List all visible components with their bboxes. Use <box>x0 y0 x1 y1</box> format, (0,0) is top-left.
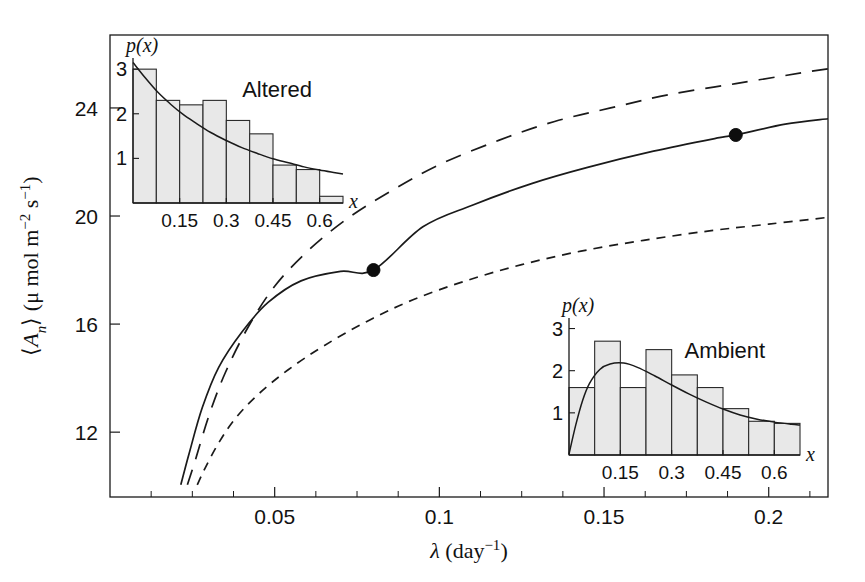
inset-x-axis-name-ambient: x <box>805 443 815 465</box>
x-axis-title-text: λ (day−1) <box>429 537 507 563</box>
inset-bar <box>697 388 723 455</box>
data-markers <box>367 128 742 276</box>
inset-bar <box>250 134 273 203</box>
y-axis-title: ⟨An⟩ (μ mol m−2 s−1) <box>17 176 49 355</box>
y-tick-label-2: 20 <box>75 205 98 228</box>
inset-bar <box>646 350 672 455</box>
inset-title-ambient: Ambient <box>685 338 766 363</box>
inset-bar <box>296 170 319 203</box>
x-axis: 0.050.10.150.2 <box>151 487 810 528</box>
inset-bar <box>749 421 775 455</box>
scientific-figure: 0.050.10.150.212162024λ (day−1)⟨An⟩ (μ m… <box>0 0 865 582</box>
inset-bar <box>320 196 343 203</box>
inset-x-tick-label-altered-0: 0.15 <box>161 210 198 231</box>
x-tick-label-2: 0.15 <box>584 505 625 528</box>
inset-x-tick-label-ambient-0: 0.15 <box>602 462 639 483</box>
inset-ambient: 1230.150.30.450.6p(x)xAmbient <box>552 294 815 483</box>
inset-y-tick-label-ambient-0: 1 <box>552 402 563 424</box>
inset-x-axis-name-altered: x <box>348 190 358 212</box>
inset-bar <box>620 388 646 455</box>
inset-x-tick-label-altered-3: 0.6 <box>306 210 332 231</box>
inset-bar <box>133 69 156 203</box>
y-tick-label-0: 12 <box>75 421 98 444</box>
inset-x-tick-label-ambient-2: 0.45 <box>705 462 742 483</box>
x-tick-label-3: 0.2 <box>754 505 783 528</box>
inset-bar <box>203 100 226 203</box>
inset-y-tick-label-ambient-2: 3 <box>552 318 563 340</box>
x-tick-label-0: 0.05 <box>254 505 295 528</box>
inset-y-tick-label-ambient-1: 2 <box>552 360 563 382</box>
x-tick-label-1: 0.1 <box>425 505 454 528</box>
inset-bar <box>226 120 249 203</box>
inset-y-tick-label-altered-2: 3 <box>116 58 127 80</box>
y-axis-title-text: ⟨An⟩ (μ mol m−2 s−1) <box>17 176 49 355</box>
inset-x-tick-label-altered-2: 0.45 <box>255 210 292 231</box>
inset-title-altered: Altered <box>242 77 312 102</box>
inset-x-tick-label-altered-1: 0.3 <box>213 210 239 231</box>
inset-y-axis-name-ambient: p(x) <box>560 294 595 317</box>
y-tick-label-3: 24 <box>75 97 99 120</box>
y-axis: 12162024 <box>75 97 120 444</box>
inset-y-tick-label-altered-1: 2 <box>116 103 127 125</box>
x-axis-title: λ (day−1) <box>429 537 507 563</box>
inset-x-tick-label-ambient-3: 0.6 <box>761 462 787 483</box>
inset-y-tick-label-altered-0: 1 <box>116 147 127 169</box>
inset-bar <box>273 165 296 203</box>
marker-ambient-point[interactable] <box>367 264 380 277</box>
y-tick-label-1: 16 <box>75 313 98 336</box>
inset-y-axis-name-altered: p(x) <box>124 34 159 57</box>
inset-bar <box>156 100 179 203</box>
figure-root: 0.050.10.150.212162024λ (day−1)⟨An⟩ (μ m… <box>0 0 865 582</box>
inset-bar <box>595 341 621 455</box>
inset-x-tick-label-ambient-1: 0.3 <box>658 462 684 483</box>
inset-bar <box>569 388 595 455</box>
inset-bar <box>774 423 800 455</box>
inset-altered: 1230.150.30.450.6p(x)xAltered <box>116 34 358 231</box>
marker-altered-point[interactable] <box>729 128 742 141</box>
